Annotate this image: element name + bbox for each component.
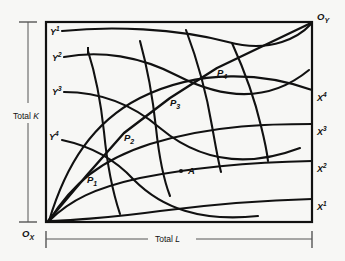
isoquant-label-x3: X3 — [317, 128, 327, 137]
edgeworth-box-frame — [46, 22, 312, 222]
isoquant-label-y4: Y4 — [49, 133, 59, 142]
tangency-label-p1: P1 — [87, 175, 97, 185]
total-l-axis-label: Total L — [152, 235, 183, 244]
tangency-label-p4: P4 — [217, 68, 227, 78]
tangency-label-p2: P2 — [124, 133, 134, 143]
isoquant-label-y3: Y3 — [52, 88, 62, 97]
isoquant-label-x4: X4 — [317, 94, 327, 103]
allocation-point-dot — [179, 169, 183, 173]
allocation-point-label: A — [188, 166, 195, 176]
isoquant-y1 — [62, 24, 311, 46]
isoquant-label-x1: X1 — [317, 203, 327, 212]
isoquant-label-x2: X2 — [317, 165, 327, 174]
origin-y-label: OY — [317, 12, 329, 22]
steep-curve-3 — [186, 30, 221, 172]
total-k-axis-label: Total K — [12, 110, 40, 123]
steep-curve-1 — [88, 51, 120, 214]
isoquant-curves-y — [62, 24, 311, 217]
edgeworth-box-figure: Total K Total L OX OY Y1 Y2 Y3 Y4 X4 X3 … — [0, 0, 345, 261]
isoquant-label-y1: Y1 — [50, 28, 60, 37]
steep-curve-4 — [232, 43, 268, 161]
isoquant-label-y2: Y2 — [52, 54, 62, 63]
tangency-label-p3: P3 — [170, 98, 180, 108]
origin-x-label: OX — [22, 229, 34, 239]
diagram-canvas — [0, 0, 345, 261]
